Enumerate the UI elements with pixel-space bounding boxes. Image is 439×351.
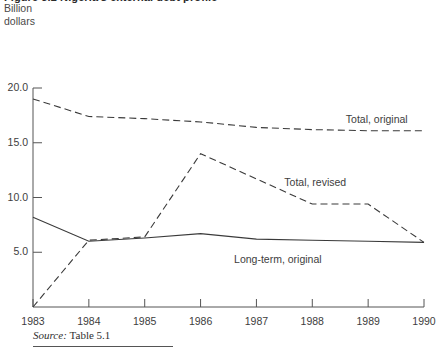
x-tick-label: 1989 — [348, 315, 388, 327]
x-tick-label: 1986 — [181, 315, 221, 327]
series-line-long-term-original — [33, 217, 424, 242]
x-tick-marks — [33, 299, 424, 307]
y-tick-label: 15.0 — [0, 136, 28, 148]
y-tick-label: 20.0 — [0, 81, 28, 93]
x-tick-label: 1988 — [292, 315, 332, 327]
source-rule — [33, 346, 173, 347]
series-label-total-revised: Total, revised — [284, 176, 346, 188]
series-lines — [33, 99, 424, 307]
y-tick-label: 10.0 — [0, 191, 28, 203]
y-tick-marks — [33, 88, 42, 252]
source-reference: Table 5.1 — [70, 329, 111, 341]
x-tick-label: 1990 — [404, 315, 439, 327]
x-tick-label: 1985 — [125, 315, 165, 327]
y-tick-label: 5.0 — [0, 245, 28, 257]
x-tick-label: 1984 — [69, 315, 109, 327]
figure-container: Figure 5.2 Nigeria's external debt profi… — [0, 0, 439, 351]
x-tick-label: 1983 — [13, 315, 53, 327]
plot-area — [0, 0, 439, 351]
series-label-long-term-original: Long-term, original — [234, 253, 322, 265]
series-label-total-original: Total, original — [346, 113, 408, 125]
x-tick-label: 1987 — [236, 315, 276, 327]
series-line-total-revised — [33, 154, 424, 307]
source-prefix: Source: — [33, 329, 67, 341]
source-note: Source: Table 5.1 — [33, 329, 110, 341]
